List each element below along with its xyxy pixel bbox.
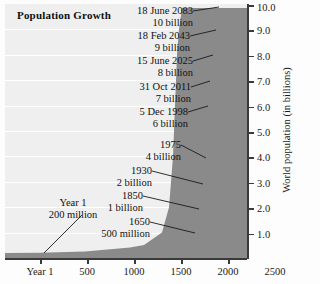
y-tick <box>248 183 254 185</box>
x-tick <box>228 258 230 264</box>
x-tick <box>181 258 183 264</box>
y-tick <box>248 132 254 134</box>
x-tick <box>134 258 136 264</box>
y-axis-title: World population (in billions) <box>281 67 292 192</box>
y-tick-label-6: 6.0 <box>257 101 270 112</box>
y-tick <box>248 5 254 7</box>
annotation-4-billion: 1975 4 billion <box>81 139 181 162</box>
x-tick-label-year1: Year 1 <box>26 266 53 277</box>
y-tick-label-10: 10.0 <box>257 2 275 13</box>
annotation-200-million: Year 1 200 million <box>28 197 118 220</box>
annotation-7-billion: 31 Oct 2011 7 billion <box>91 81 191 104</box>
y-tick-label-4: 4.0 <box>257 152 270 163</box>
y-tick <box>248 234 254 236</box>
y-tick-label-9: 9.0 <box>257 25 270 36</box>
y-tick <box>248 81 254 83</box>
x-tick-label-500: 500 <box>79 266 95 277</box>
y-tick <box>248 208 254 210</box>
x-tick-label-1000: 1000 <box>124 266 145 277</box>
annotation-6-billion: 5 Dec 1998 6 billion <box>88 106 188 129</box>
x-tick-label-1500: 1500 <box>171 266 192 277</box>
annotation-8-billion: 15 June 2025 8 billion <box>93 55 193 78</box>
y-tick <box>248 56 254 58</box>
y-tick-label-3: 3.0 <box>257 177 270 188</box>
y-tick-label-7: 7.0 <box>257 76 270 87</box>
y-tick-label-1: 1.0 <box>257 228 270 239</box>
x-tick-label-2000: 2000 <box>218 266 239 277</box>
x-tick-label-2500: 2500 <box>265 266 286 277</box>
x-tick <box>40 258 42 264</box>
y-tick <box>248 107 254 109</box>
population-growth-chart: Population Growth 18 June 2083 10 billio… <box>0 0 320 284</box>
y-tick-label-5: 5.0 <box>257 127 270 138</box>
y-tick-label-2: 2.0 <box>257 203 270 214</box>
y-tick <box>248 30 254 32</box>
annotation-10-billion: 18 June 2083 10 billion <box>93 5 193 28</box>
annotation-9-billion: 18 Feb 2043 9 billion <box>90 30 190 53</box>
y-tick-label-8: 8.0 <box>257 50 270 61</box>
y-tick <box>248 157 254 159</box>
annotation-2-billion: 1930 2 billion <box>52 165 152 188</box>
x-tick <box>87 258 89 264</box>
